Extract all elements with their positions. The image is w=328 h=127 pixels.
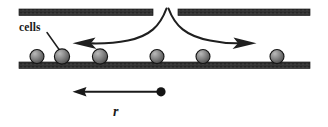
radial-distance-arrowhead [73, 87, 87, 97]
cell-sphere [196, 50, 210, 64]
cell-sphere [270, 50, 284, 64]
radial-distance-origin-dot [156, 87, 165, 96]
radial-distance-arrow [73, 87, 166, 97]
cell-sphere [92, 49, 107, 64]
cell-sphere [150, 50, 164, 64]
upper-plate-right [178, 9, 310, 16]
cell-sphere [30, 50, 44, 64]
upper-plate-left [19, 9, 153, 16]
schematic-drawing [0, 0, 328, 127]
radial-distance-label: r [113, 104, 118, 120]
figure-canvas: cells r [0, 0, 328, 127]
cell-sphere [54, 49, 69, 64]
cells-leader-line [47, 33, 61, 52]
cells-label: cells [19, 21, 41, 33]
